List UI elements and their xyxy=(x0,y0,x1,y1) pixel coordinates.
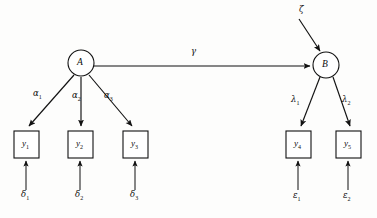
observed-box-y5-subscript: 5 xyxy=(348,144,351,150)
observed-box-y2-subscript: 2 xyxy=(80,144,83,150)
observed-box-y4-label: y4 xyxy=(294,139,301,150)
path-label-alpha2: α2 xyxy=(72,91,81,102)
diagram-canvas xyxy=(0,0,377,218)
edge-B-to-y4 xyxy=(301,77,320,126)
path-label-alpha3: α3 xyxy=(104,91,113,102)
residual-label-delta3: δ3 xyxy=(130,190,138,201)
path-label-alpha3-subscript: 3 xyxy=(110,96,113,102)
observed-box-y3-label: y3 xyxy=(131,139,138,150)
observed-box-y2-label: y2 xyxy=(76,139,83,150)
residual-label-delta3-subscript: 3 xyxy=(135,195,138,201)
residual-label-zeta-symbol: ζ xyxy=(299,4,304,14)
path-label-lambda2: λ2 xyxy=(342,95,350,106)
residual-label-epsilon2: ε2 xyxy=(343,191,351,202)
path-label-lambda1: λ1 xyxy=(291,95,299,106)
path-label-alpha2-subscript: 2 xyxy=(78,96,81,102)
observed-box-y4-subscript: 4 xyxy=(298,144,301,150)
observed-box-y5-label: y5 xyxy=(344,139,351,150)
residual-label-epsilon1-subscript: 1 xyxy=(298,196,301,202)
observed-box-y1-label: y1 xyxy=(22,139,29,150)
path-label-lambda1-subscript: 1 xyxy=(296,100,299,106)
residual-label-zeta: ζ xyxy=(299,5,304,16)
edge-A-to-y1 xyxy=(29,75,74,126)
edge-zeta-to-B xyxy=(299,19,320,51)
residual-label-epsilon2-subscript: 2 xyxy=(348,196,351,202)
path-label-gamma-symbol: γ xyxy=(191,46,196,56)
observed-box-y1-subscript: 1 xyxy=(26,144,29,150)
latent-node-A-label: A xyxy=(77,58,83,68)
residual-label-delta2-subscript: 2 xyxy=(80,195,83,201)
path-label-lambda2-subscript: 2 xyxy=(347,100,350,106)
residual-label-delta1-subscript: 1 xyxy=(26,195,29,201)
path-label-gamma: γ xyxy=(191,47,196,58)
path-label-alpha1-subscript: 1 xyxy=(39,94,42,100)
latent-node-B-label: B xyxy=(322,60,328,70)
observed-box-y3-subscript: 3 xyxy=(135,144,138,150)
residual-label-epsilon1: ε1 xyxy=(293,191,301,202)
residual-label-delta1: δ1 xyxy=(21,190,29,201)
residual-label-delta2: δ2 xyxy=(75,190,83,201)
path-label-alpha1: α1 xyxy=(33,89,42,100)
path-diagram-figure: A B y1 y2 y3 y4 y5 α1 α2 α3 γ λ1 λ2 δ1 δ… xyxy=(0,0,377,218)
